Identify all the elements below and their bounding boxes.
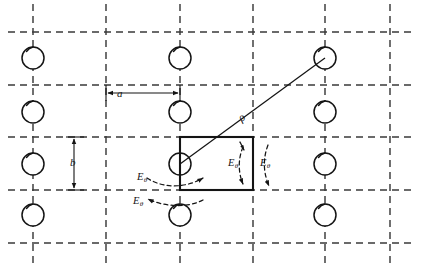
- field-subscript: θ: [140, 200, 144, 208]
- conductor-circle: [314, 204, 336, 226]
- field-label-bottom: Eθ: [133, 196, 143, 208]
- field-subscript: θ: [267, 162, 271, 170]
- figure-container: a b ρ Eθ Eθ Eθ Eθ: [0, 0, 421, 269]
- conductor-current-hooks: [27, 47, 326, 209]
- diagram-canvas: [0, 0, 421, 269]
- field-arrow-group: [147, 142, 269, 206]
- conductor-circle: [22, 47, 44, 69]
- conductor-circle: [314, 153, 336, 175]
- field-symbol: E: [260, 157, 266, 168]
- field-label-outside-right: Eθ: [260, 158, 270, 170]
- conductor-circle: [22, 204, 44, 226]
- lattice-grid: [8, 4, 416, 265]
- dimension-b-label: b: [70, 157, 76, 168]
- field-arrow-left: [147, 178, 203, 186]
- dimension-a-label: a: [117, 88, 123, 99]
- conductor-circle: [22, 153, 44, 175]
- conductor-circle: [22, 101, 44, 123]
- field-arrow-inside-right: [239, 147, 243, 184]
- field-subscript: θ: [235, 162, 239, 170]
- conductor-circle: [169, 47, 191, 69]
- conductor-circle: [169, 101, 191, 123]
- field-subscript: θ: [144, 176, 148, 184]
- conductor-circle: [169, 204, 191, 226]
- field-symbol: E: [228, 157, 234, 168]
- conductor-circle: [314, 101, 336, 123]
- field-label-inside-right: Eθ: [228, 158, 238, 170]
- field-symbol: E: [133, 195, 139, 206]
- field-label-left: Eθ: [137, 172, 147, 184]
- field-symbol: E: [137, 171, 143, 182]
